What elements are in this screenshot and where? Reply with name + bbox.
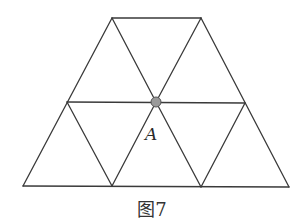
grid-edge	[23, 186, 289, 187]
figure-caption: 图7	[137, 199, 166, 220]
grid-edge	[112, 102, 156, 186]
grid-edge	[156, 102, 201, 187]
grid-edge	[156, 18, 201, 102]
grid-edge	[201, 103, 245, 187]
point-a-marker	[151, 97, 161, 107]
point-a-label: A	[143, 124, 157, 144]
grid-edge	[67, 102, 112, 186]
grid-edge	[112, 18, 156, 102]
triangle-grid-diagram: A 图7	[0, 0, 305, 223]
